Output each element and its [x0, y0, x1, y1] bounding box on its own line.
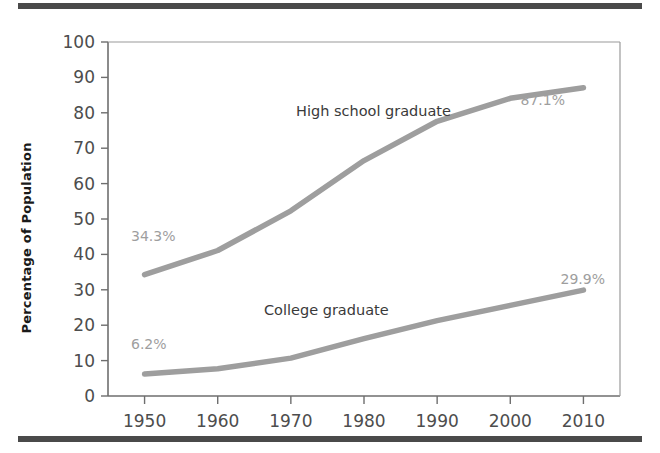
- x-tick-label: 2010: [562, 411, 605, 428]
- value-label-high-school-start: 34.3%: [131, 228, 175, 244]
- chart-page: Percentage of Population 010203040506070…: [0, 0, 660, 453]
- series-annotation-college: College graduate: [264, 302, 389, 318]
- y-tick-label: 90: [73, 67, 95, 87]
- value-label-college-start: 6.2%: [131, 336, 167, 352]
- x-tick-label: 1950: [123, 411, 166, 428]
- value-label-high-school-end: 87.1%: [521, 92, 565, 108]
- y-tick-label: 100: [63, 32, 95, 52]
- plot-canvas: 0102030405060708090100 19501960197019801…: [0, 18, 660, 428]
- y-tick-label: 60: [73, 174, 95, 194]
- line-chart: Percentage of Population 010203040506070…: [0, 18, 660, 428]
- x-tick-label: 1990: [416, 411, 459, 428]
- y-tick-label: 20: [73, 315, 95, 335]
- y-axis-ticks: 0102030405060708090100: [63, 32, 108, 406]
- x-axis-ticks: 1950196019701980199020002010: [123, 396, 605, 428]
- y-tick-label: 0: [84, 386, 95, 406]
- y-tick-label: 80: [73, 103, 95, 123]
- y-tick-label: 50: [73, 209, 95, 229]
- y-tick-label: 40: [73, 244, 95, 264]
- top-divider-rule: [18, 3, 642, 9]
- y-tick-label: 30: [73, 280, 95, 300]
- y-tick-label: 10: [73, 351, 95, 371]
- series-annotation-high-school: High school graduate: [296, 103, 451, 119]
- bottom-divider-rule: [18, 436, 642, 442]
- value-label-college-end: 29.9%: [561, 271, 605, 287]
- x-tick-label: 1960: [196, 411, 239, 428]
- x-tick-label: 2000: [489, 411, 532, 428]
- x-tick-label: 1970: [269, 411, 312, 428]
- x-tick-label: 1980: [342, 411, 385, 428]
- y-tick-label: 70: [73, 138, 95, 158]
